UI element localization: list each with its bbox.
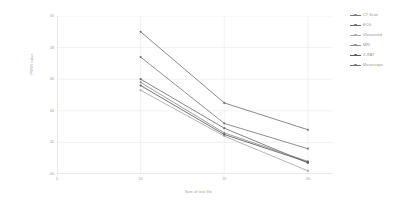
legend-item-x-ray[interactable]: X-RAY — [350, 50, 396, 60]
y-tick-label: 48 — [40, 46, 54, 50]
legend-marker-icon — [350, 42, 361, 48]
legend-item-mri[interactable]: MRI — [350, 40, 396, 50]
chart-legend: CT Scan ECG Ultrasound MRI X-RAY Microsc… — [350, 10, 396, 70]
legend-item-ecg[interactable]: ECG — [350, 20, 396, 30]
chart-container: PSNR value 50 48 46 44 42 40 0 10 20 30 … — [0, 0, 397, 209]
legend-label: Microscopic — [363, 63, 384, 67]
y-axis-tick-labels: 50 48 46 44 42 40 — [40, 16, 54, 174]
gridlines — [57, 16, 333, 174]
x-tick-label: 30 — [300, 177, 316, 181]
y-tick-label: 42 — [40, 140, 54, 144]
legend-label: Ultrasound — [363, 33, 382, 37]
legend-item-microscopic[interactable]: Microscopic — [350, 60, 396, 70]
plot-canvas — [57, 16, 333, 174]
legend-label: ECG — [363, 23, 371, 27]
legend-item-ultrasound[interactable]: Ultrasound — [350, 30, 396, 40]
legend-item-ct-scan[interactable]: CT Scan — [350, 10, 396, 20]
y-tick-label: 46 — [40, 77, 54, 81]
legend-marker-icon — [350, 22, 361, 28]
legend-label: MRI — [363, 43, 370, 47]
legend-marker-icon — [350, 32, 361, 38]
x-tick-label: 0 — [49, 177, 65, 181]
plot-area — [57, 16, 333, 174]
y-tick-label: 40 — [40, 172, 54, 176]
x-axis-title: Size of text file — [0, 190, 397, 194]
legend-marker-icon — [350, 62, 361, 68]
y-axis-title: PSNR value — [30, 24, 34, 104]
x-tick-label: 20 — [216, 177, 232, 181]
axis-lines — [57, 16, 333, 174]
y-tick-label: 44 — [40, 109, 54, 113]
legend-label: CT Scan — [363, 13, 378, 17]
x-axis-tick-labels: 0 10 20 30 — [57, 177, 333, 185]
legend-marker-icon — [350, 12, 361, 18]
legend-marker-icon — [350, 52, 361, 58]
x-tick-label: 10 — [133, 177, 149, 181]
y-tick-label: 50 — [40, 14, 54, 18]
legend-label: X-RAY — [363, 53, 375, 57]
